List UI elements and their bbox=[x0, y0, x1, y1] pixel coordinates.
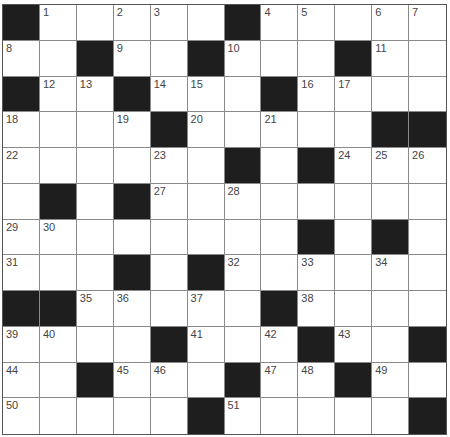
answer-cell[interactable] bbox=[372, 184, 409, 220]
answer-cell[interactable] bbox=[335, 255, 372, 291]
answer-cell[interactable] bbox=[40, 148, 77, 184]
answer-cell[interactable]: 5 bbox=[298, 5, 335, 41]
answer-cell[interactable] bbox=[335, 291, 372, 327]
answer-cell[interactable] bbox=[40, 398, 77, 434]
answer-cell[interactable] bbox=[151, 291, 188, 327]
answer-cell[interactable] bbox=[335, 112, 372, 148]
answer-cell[interactable] bbox=[335, 398, 372, 434]
answer-cell[interactable]: 17 bbox=[335, 77, 372, 113]
answer-cell[interactable]: 2 bbox=[114, 5, 151, 41]
answer-cell[interactable]: 24 bbox=[335, 148, 372, 184]
answer-cell[interactable]: 16 bbox=[298, 77, 335, 113]
answer-cell[interactable]: 7 bbox=[409, 5, 446, 41]
answer-cell[interactable] bbox=[40, 41, 77, 77]
answer-cell[interactable]: 8 bbox=[3, 41, 40, 77]
answer-cell[interactable] bbox=[409, 220, 446, 256]
answer-cell[interactable]: 9 bbox=[114, 41, 151, 77]
answer-cell[interactable]: 19 bbox=[114, 112, 151, 148]
answer-cell[interactable]: 26 bbox=[409, 148, 446, 184]
answer-cell[interactable] bbox=[335, 5, 372, 41]
answer-cell[interactable] bbox=[261, 184, 298, 220]
answer-cell[interactable] bbox=[188, 5, 225, 41]
answer-cell[interactable]: 1 bbox=[40, 5, 77, 41]
answer-cell[interactable]: 49 bbox=[372, 363, 409, 399]
answer-cell[interactable] bbox=[335, 220, 372, 256]
answer-cell[interactable] bbox=[188, 363, 225, 399]
answer-cell[interactable] bbox=[188, 220, 225, 256]
answer-cell[interactable]: 18 bbox=[3, 112, 40, 148]
answer-cell[interactable]: 23 bbox=[151, 148, 188, 184]
answer-cell[interactable]: 32 bbox=[225, 255, 262, 291]
answer-cell[interactable] bbox=[409, 41, 446, 77]
answer-cell[interactable] bbox=[151, 398, 188, 434]
answer-cell[interactable]: 12 bbox=[40, 77, 77, 113]
answer-cell[interactable] bbox=[335, 184, 372, 220]
answer-cell[interactable] bbox=[225, 291, 262, 327]
answer-cell[interactable] bbox=[188, 148, 225, 184]
answer-cell[interactable] bbox=[225, 112, 262, 148]
answer-cell[interactable] bbox=[409, 363, 446, 399]
answer-cell[interactable]: 31 bbox=[3, 255, 40, 291]
answer-cell[interactable] bbox=[77, 112, 114, 148]
answer-cell[interactable]: 33 bbox=[298, 255, 335, 291]
answer-cell[interactable] bbox=[3, 184, 40, 220]
answer-cell[interactable] bbox=[261, 220, 298, 256]
answer-cell[interactable]: 10 bbox=[225, 41, 262, 77]
answer-cell[interactable]: 45 bbox=[114, 363, 151, 399]
answer-cell[interactable]: 38 bbox=[298, 291, 335, 327]
answer-cell[interactable] bbox=[114, 327, 151, 363]
answer-cell[interactable] bbox=[261, 148, 298, 184]
answer-cell[interactable] bbox=[372, 291, 409, 327]
answer-cell[interactable]: 3 bbox=[151, 5, 188, 41]
answer-cell[interactable]: 30 bbox=[40, 220, 77, 256]
answer-cell[interactable]: 36 bbox=[114, 291, 151, 327]
answer-cell[interactable]: 11 bbox=[372, 41, 409, 77]
answer-cell[interactable]: 48 bbox=[298, 363, 335, 399]
answer-cell[interactable]: 29 bbox=[3, 220, 40, 256]
answer-cell[interactable] bbox=[409, 184, 446, 220]
answer-cell[interactable] bbox=[114, 220, 151, 256]
answer-cell[interactable] bbox=[261, 398, 298, 434]
answer-cell[interactable] bbox=[225, 77, 262, 113]
answer-cell[interactable] bbox=[77, 398, 114, 434]
answer-cell[interactable] bbox=[77, 220, 114, 256]
answer-cell[interactable] bbox=[372, 77, 409, 113]
answer-cell[interactable] bbox=[261, 255, 298, 291]
answer-cell[interactable]: 27 bbox=[151, 184, 188, 220]
answer-cell[interactable]: 25 bbox=[372, 148, 409, 184]
answer-cell[interactable]: 35 bbox=[77, 291, 114, 327]
answer-cell[interactable] bbox=[77, 184, 114, 220]
answer-cell[interactable]: 20 bbox=[188, 112, 225, 148]
answer-cell[interactable]: 34 bbox=[372, 255, 409, 291]
answer-cell[interactable]: 46 bbox=[151, 363, 188, 399]
answer-cell[interactable]: 22 bbox=[3, 148, 40, 184]
answer-cell[interactable]: 14 bbox=[151, 77, 188, 113]
answer-cell[interactable] bbox=[77, 148, 114, 184]
answer-cell[interactable] bbox=[298, 398, 335, 434]
answer-cell[interactable] bbox=[77, 327, 114, 363]
answer-cell[interactable]: 43 bbox=[335, 327, 372, 363]
answer-cell[interactable] bbox=[40, 112, 77, 148]
answer-cell[interactable] bbox=[298, 41, 335, 77]
answer-cell[interactable]: 15 bbox=[188, 77, 225, 113]
answer-cell[interactable]: 4 bbox=[261, 5, 298, 41]
answer-cell[interactable] bbox=[298, 184, 335, 220]
answer-cell[interactable] bbox=[77, 255, 114, 291]
answer-cell[interactable] bbox=[409, 291, 446, 327]
answer-cell[interactable] bbox=[114, 148, 151, 184]
answer-cell[interactable]: 51 bbox=[225, 398, 262, 434]
answer-cell[interactable]: 44 bbox=[3, 363, 40, 399]
answer-cell[interactable] bbox=[261, 41, 298, 77]
answer-cell[interactable] bbox=[40, 255, 77, 291]
answer-cell[interactable] bbox=[409, 77, 446, 113]
answer-cell[interactable] bbox=[151, 41, 188, 77]
answer-cell[interactable] bbox=[151, 220, 188, 256]
answer-cell[interactable]: 50 bbox=[3, 398, 40, 434]
answer-cell[interactable]: 40 bbox=[40, 327, 77, 363]
answer-cell[interactable]: 39 bbox=[3, 327, 40, 363]
answer-cell[interactable] bbox=[372, 327, 409, 363]
answer-cell[interactable] bbox=[77, 5, 114, 41]
answer-cell[interactable] bbox=[225, 327, 262, 363]
answer-cell[interactable]: 13 bbox=[77, 77, 114, 113]
answer-cell[interactable]: 42 bbox=[261, 327, 298, 363]
